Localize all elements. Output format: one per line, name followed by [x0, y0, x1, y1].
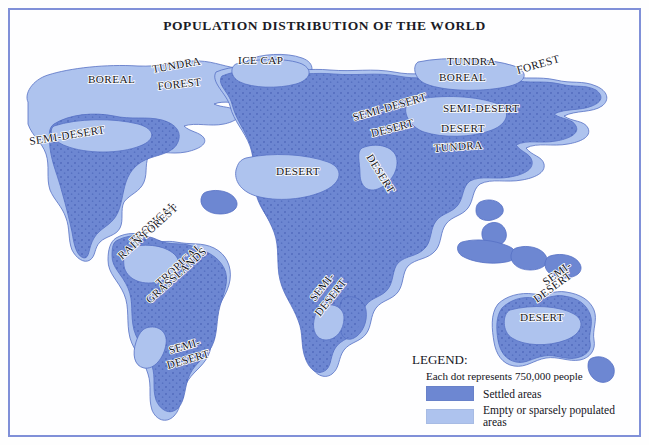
map-label-as-tundra: TUNDRA — [447, 55, 496, 67]
legend-label-empty: Empty or sparsely populated areas — [483, 404, 636, 428]
page-title: POPULATION DISTRIBUTION OF THE WORLD — [0, 18, 649, 34]
map-label-as-desert: DESERT — [441, 122, 485, 134]
legend-dot-note: Each dot represents 750,000 people — [426, 370, 636, 382]
map-label-af-desert: DESERT — [276, 165, 320, 177]
settled-island-indonesia — [458, 240, 517, 263]
map-label-au-desert: DESERT — [520, 311, 564, 323]
map-label-as-boreal: BOREAL — [439, 71, 486, 83]
settled-island-borneo — [511, 246, 547, 270]
map-label-as-semi-desert: SEMI-DESERT — [443, 102, 519, 114]
legend-item-empty: Empty or sparsely populated areas — [426, 404, 636, 428]
map-label-na-boreal: BOREAL — [88, 73, 135, 85]
settled-island-japan — [476, 200, 503, 221]
legend-heading: LEGEND: — [412, 352, 636, 368]
legend: LEGEND: Each dot represents 750,000 peop… — [412, 352, 636, 428]
map-label-na-ice-cap: ICE CAP — [238, 54, 283, 66]
legend-swatch-empty — [426, 409, 474, 424]
map-page: POPULATION DISTRIBUTION OF THE WORLD BOR… — [0, 0, 649, 445]
legend-item-settled: Settled areas — [426, 386, 636, 401]
legend-swatch-settled — [426, 386, 474, 401]
legend-label-settled: Settled areas — [483, 388, 541, 400]
settled-island-caribbean — [201, 190, 237, 214]
map-label-as-forest: FOREST — [515, 52, 561, 76]
